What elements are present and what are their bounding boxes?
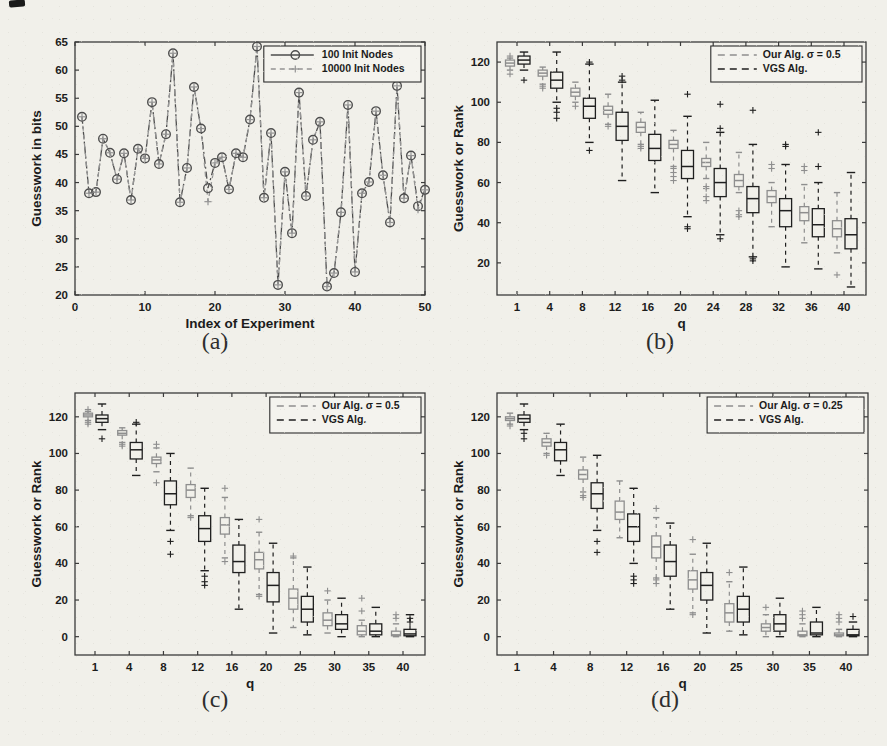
svg-text:10: 10 bbox=[139, 301, 152, 313]
svg-text:80: 80 bbox=[477, 136, 490, 148]
svg-text:35: 35 bbox=[803, 661, 816, 673]
svg-text:20: 20 bbox=[477, 257, 490, 269]
svg-text:Guesswork or Rank: Guesswork or Rank bbox=[451, 460, 466, 587]
svg-text:35: 35 bbox=[55, 205, 68, 217]
box-chart-sigma05-q25: 14812162025303540020406080100120qGuesswo… bbox=[0, 358, 460, 706]
svg-text:50: 50 bbox=[55, 120, 68, 132]
svg-text:120: 120 bbox=[471, 56, 490, 68]
svg-text:20: 20 bbox=[477, 594, 490, 606]
svg-text:20: 20 bbox=[693, 661, 706, 673]
svg-text:40: 40 bbox=[397, 661, 410, 673]
box-series-1 bbox=[518, 52, 857, 287]
box-series-1 bbox=[518, 404, 859, 637]
svg-text:20: 20 bbox=[55, 594, 68, 606]
svg-text:16: 16 bbox=[657, 661, 670, 673]
svg-text:40: 40 bbox=[477, 217, 490, 229]
svg-text:VGS Alg.: VGS Alg. bbox=[763, 62, 808, 74]
svg-text:28: 28 bbox=[740, 301, 753, 313]
subplot-a: 0102030405020253035404550556065Index of … bbox=[0, 0, 460, 360]
svg-text:30: 30 bbox=[766, 661, 779, 673]
svg-text:Guesswork or Rank: Guesswork or Rank bbox=[29, 460, 44, 587]
svg-text:80: 80 bbox=[55, 484, 68, 496]
svg-text:60: 60 bbox=[55, 64, 68, 76]
figure-page: 0102030405020253035404550556065Index of … bbox=[0, 0, 887, 746]
svg-text:8: 8 bbox=[579, 301, 586, 313]
axes-d: 14812162025303540020406080100120qGuesswo… bbox=[451, 393, 868, 691]
legend-a: 100 Init Nodes10000 Init Nodes bbox=[264, 46, 421, 82]
svg-text:Guesswork or Rank: Guesswork or Rank bbox=[451, 105, 466, 232]
svg-text:40: 40 bbox=[838, 301, 851, 313]
svg-text:12: 12 bbox=[620, 661, 633, 673]
svg-text:40: 40 bbox=[349, 301, 362, 313]
caption-b: (b) bbox=[545, 328, 775, 355]
svg-text:50: 50 bbox=[419, 301, 432, 313]
svg-text:25: 25 bbox=[730, 661, 743, 673]
svg-text:8: 8 bbox=[587, 661, 594, 673]
svg-text:10000 Init Nodes: 10000 Init Nodes bbox=[322, 62, 405, 74]
svg-text:12: 12 bbox=[609, 301, 622, 313]
svg-text:20: 20 bbox=[674, 301, 687, 313]
svg-text:100: 100 bbox=[471, 447, 490, 459]
svg-text:4: 4 bbox=[550, 661, 557, 673]
svg-text:120: 120 bbox=[471, 411, 490, 423]
subplot-b: 148121620242832364020406080100120qGuessw… bbox=[437, 0, 887, 360]
svg-text:55: 55 bbox=[55, 92, 68, 104]
svg-text:80: 80 bbox=[477, 484, 490, 496]
caption-a: (a) bbox=[100, 328, 330, 355]
svg-text:0: 0 bbox=[484, 631, 490, 643]
axes-c: 14812162025303540020406080100120qGuesswo… bbox=[29, 393, 425, 691]
svg-text:0: 0 bbox=[72, 301, 78, 313]
svg-text:65: 65 bbox=[55, 36, 68, 48]
box-series-1 bbox=[96, 404, 416, 637]
svg-text:30: 30 bbox=[55, 233, 68, 245]
svg-text:VGS Alg.: VGS Alg. bbox=[322, 413, 367, 425]
subplot-c: 14812162025303540020406080100120qGuesswo… bbox=[0, 358, 460, 706]
svg-text:4: 4 bbox=[546, 301, 553, 313]
svg-text:45: 45 bbox=[55, 148, 68, 160]
legend-c: Our Alg. σ = 0.5VGS Alg. bbox=[270, 397, 421, 433]
svg-text:60: 60 bbox=[477, 177, 490, 189]
svg-text:100: 100 bbox=[471, 96, 490, 108]
svg-text:16: 16 bbox=[225, 661, 238, 673]
svg-text:Our Alg. σ = 0.5: Our Alg. σ = 0.5 bbox=[322, 399, 400, 411]
axes-b: 148121620242832364020406080100120qGuessw… bbox=[451, 42, 866, 331]
svg-text:0: 0 bbox=[62, 631, 68, 643]
caption-c: (c) bbox=[100, 686, 330, 713]
svg-text:60: 60 bbox=[55, 521, 68, 533]
svg-text:4: 4 bbox=[126, 661, 133, 673]
box-series-0 bbox=[506, 413, 844, 637]
svg-text:1: 1 bbox=[514, 301, 521, 313]
svg-text:100: 100 bbox=[49, 447, 68, 459]
svg-text:Guesswork in bits: Guesswork in bits bbox=[29, 110, 44, 226]
legend-b: Our Alg. σ = 0.5VGS Alg. bbox=[711, 46, 862, 82]
box-chart-sigma05-q24: 148121620242832364020406080100120qGuessw… bbox=[437, 0, 887, 360]
svg-text:100 Init Nodes: 100 Init Nodes bbox=[322, 48, 393, 60]
svg-text:30: 30 bbox=[328, 661, 341, 673]
box-series-0 bbox=[84, 406, 401, 636]
box-chart-sigma025: 14812162025303540020406080100120qGuesswo… bbox=[437, 358, 887, 706]
svg-text:20: 20 bbox=[260, 661, 273, 673]
svg-text:8: 8 bbox=[160, 661, 167, 673]
svg-text:40: 40 bbox=[477, 557, 490, 569]
svg-text:Our Alg. σ = 0.25: Our Alg. σ = 0.25 bbox=[759, 399, 843, 411]
svg-text:25: 25 bbox=[55, 261, 68, 273]
caption-d: (d) bbox=[550, 686, 780, 713]
svg-text:16: 16 bbox=[641, 301, 654, 313]
svg-text:VGS Alg.: VGS Alg. bbox=[759, 413, 804, 425]
svg-text:1: 1 bbox=[514, 661, 521, 673]
svg-text:20: 20 bbox=[209, 301, 222, 313]
svg-text:Our Alg. σ = 0.5: Our Alg. σ = 0.5 bbox=[763, 48, 841, 60]
subplot-d: 14812162025303540020406080100120qGuesswo… bbox=[437, 358, 887, 706]
legend-d: Our Alg. σ = 0.25VGS Alg. bbox=[707, 397, 864, 433]
line-chart-guesswork: 0102030405020253035404550556065Index of … bbox=[0, 0, 460, 360]
svg-text:40: 40 bbox=[55, 177, 68, 189]
box-series-0 bbox=[506, 53, 842, 278]
svg-text:32: 32 bbox=[772, 301, 785, 313]
svg-text:36: 36 bbox=[805, 301, 818, 313]
svg-text:24: 24 bbox=[707, 301, 720, 313]
svg-text:1: 1 bbox=[92, 661, 99, 673]
svg-text:60: 60 bbox=[477, 521, 490, 533]
svg-text:120: 120 bbox=[49, 411, 68, 423]
svg-text:12: 12 bbox=[191, 661, 204, 673]
svg-text:30: 30 bbox=[279, 301, 292, 313]
